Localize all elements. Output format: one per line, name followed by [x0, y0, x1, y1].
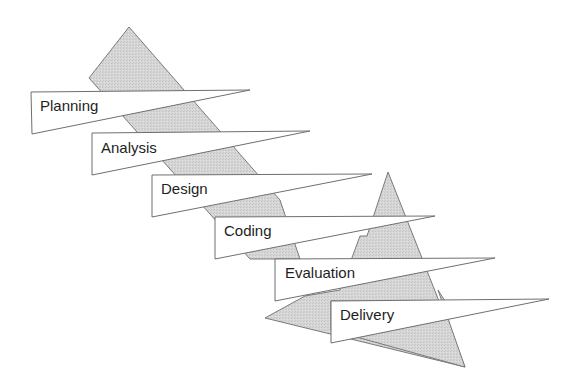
- phase-label-design: Design: [161, 180, 208, 197]
- waterfall-diagram: Planning Analysis Design Coding Evaluati…: [0, 0, 574, 380]
- phase-label-coding: Coding: [224, 222, 272, 239]
- phase-label-analysis: Analysis: [101, 139, 157, 156]
- phase-label-planning: Planning: [40, 97, 98, 114]
- phase-label-evaluation: Evaluation: [285, 264, 355, 281]
- phase-label-delivery: Delivery: [340, 306, 395, 323]
